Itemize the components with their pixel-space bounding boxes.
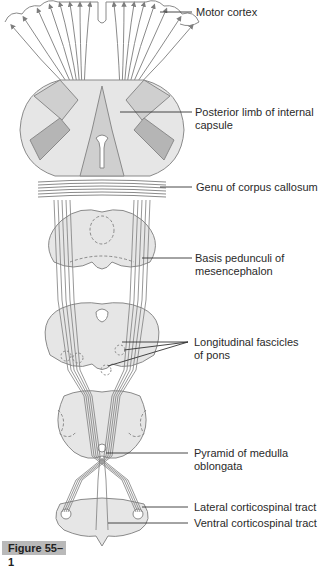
label-pyramid-medulla: Pyramid of medulla oblongata xyxy=(194,447,288,472)
genu-corpus-callosum-shape xyxy=(38,180,166,197)
internal-capsule-section xyxy=(20,80,184,176)
medulla-section xyxy=(58,391,146,459)
label-lateral-corticospinal-tract: Lateral corticospinal tract xyxy=(194,501,316,514)
label-basis-pedunculi: Basis pedunculi of mesencephalon xyxy=(195,252,284,277)
motor-cortex-shape xyxy=(5,1,199,90)
spinal-cord-section xyxy=(56,498,148,546)
label-posterior-limb-internal-capsule: Posterior limb of internal capsule xyxy=(195,106,314,131)
figure-caption: Figure 55–1 xyxy=(2,541,66,555)
label-genu-corpus-callosum: Genu of corpus callosum xyxy=(196,181,318,194)
pons-section xyxy=(45,303,159,375)
label-ventral-corticospinal-tract: Ventral corticospinal tract xyxy=(194,517,317,530)
label-motor-cortex: Motor cortex xyxy=(196,6,257,19)
label-longitudinal-fascicles: Longitudinal fascicles of pons xyxy=(194,336,299,361)
